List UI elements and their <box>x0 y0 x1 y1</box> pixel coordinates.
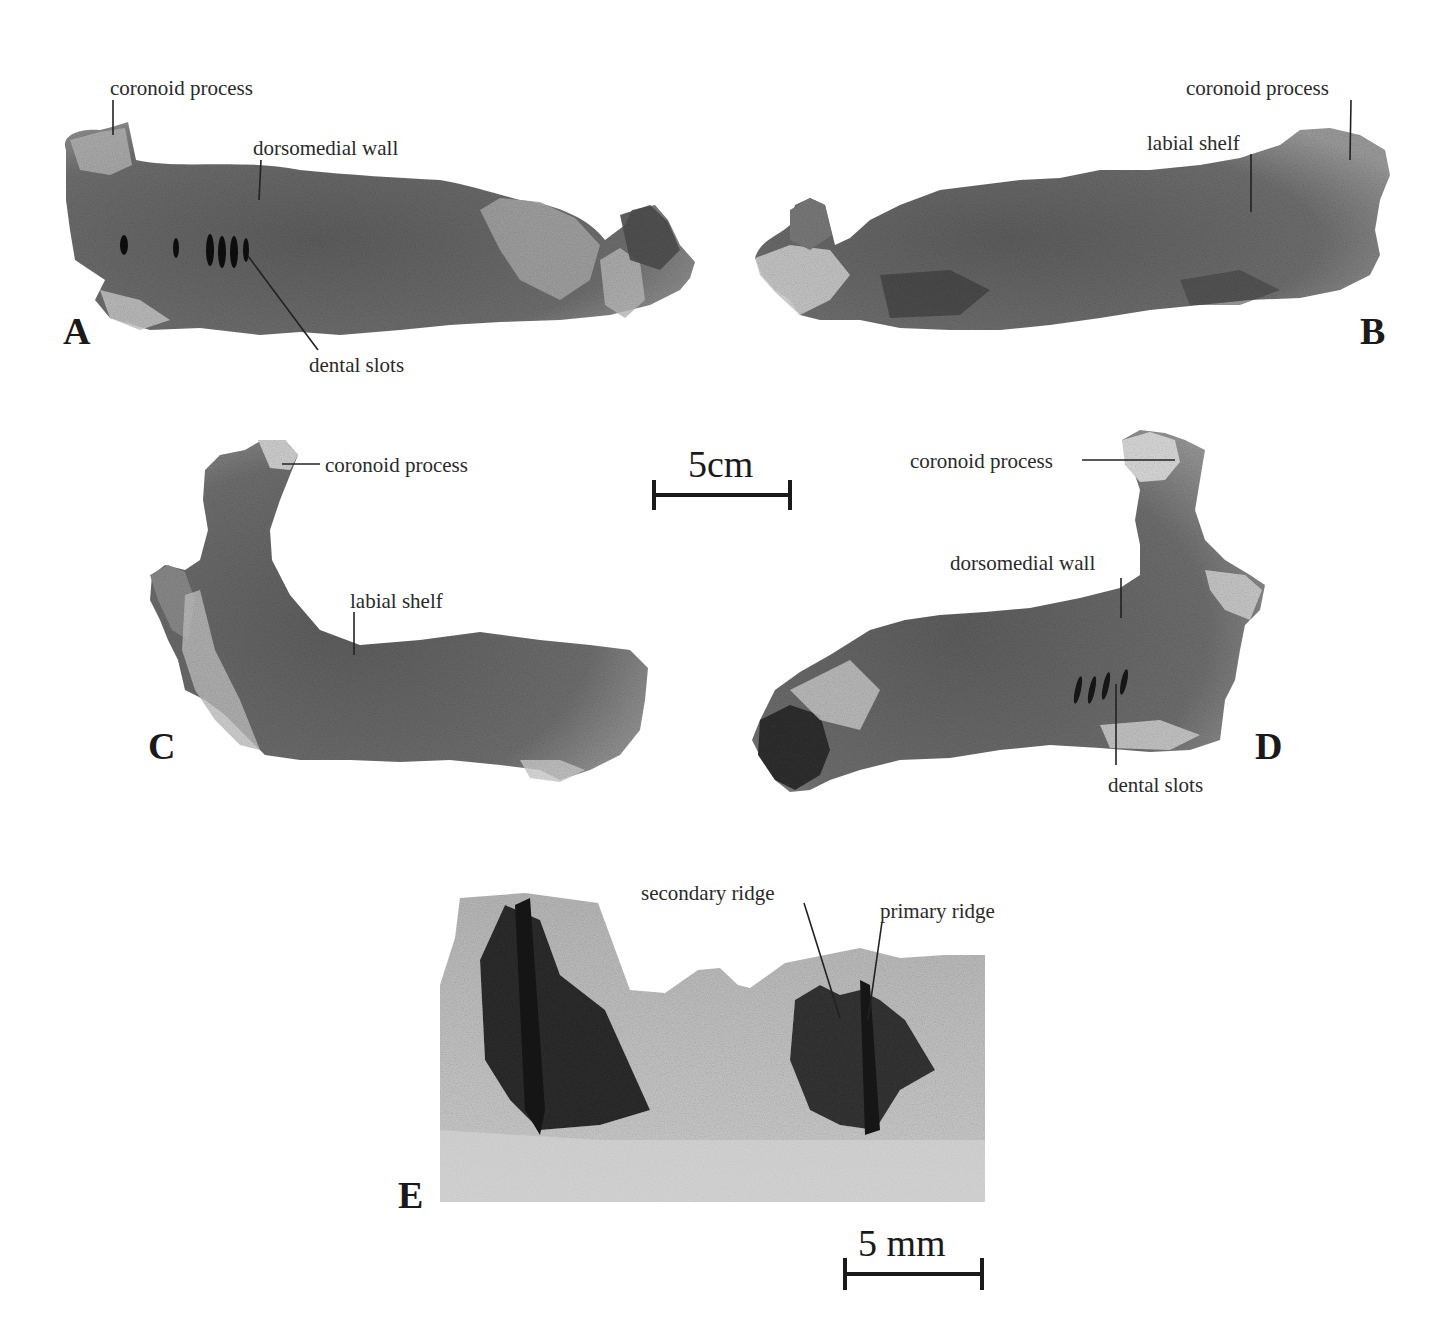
panel-letter-c: C <box>148 727 175 765</box>
scale-bar-5mm-label: 5 mm <box>858 1224 946 1262</box>
label-d-dental-slots: dental slots <box>1108 775 1203 796</box>
label-b-coronoid-process: coronoid process <box>1186 78 1329 99</box>
panel-letter-d: D <box>1255 727 1282 765</box>
label-a-dorsomedial-wall: dorsomedial wall <box>253 138 398 159</box>
label-a-dental-slots: dental slots <box>309 355 404 376</box>
label-d-dorsomedial-wall: dorsomedial wall <box>950 553 1095 574</box>
label-c-coronoid-process: coronoid process <box>325 455 468 476</box>
panel-letter-e: E <box>398 1176 423 1214</box>
specimen-graphics <box>0 0 1453 1339</box>
specimen-d <box>752 430 1265 792</box>
specimen-b <box>755 128 1390 330</box>
scale-bar-5cm-label: 5cm <box>688 445 753 483</box>
panel-letter-b: B <box>1360 312 1385 350</box>
label-c-labial-shelf: labial shelf <box>350 591 443 612</box>
label-b-labial-shelf: labial shelf <box>1147 133 1240 154</box>
label-a-coronoid-process: coronoid process <box>110 78 253 99</box>
label-e-secondary-ridge: secondary ridge <box>641 883 775 904</box>
fossil-figure: coronoid process dorsomedial wall dental… <box>0 0 1453 1339</box>
label-e-primary-ridge: primary ridge <box>880 901 995 922</box>
specimen-e-tooth-closeup <box>440 893 985 1202</box>
label-d-coronoid-process: coronoid process <box>910 451 1053 472</box>
panel-letter-a: A <box>63 312 90 350</box>
